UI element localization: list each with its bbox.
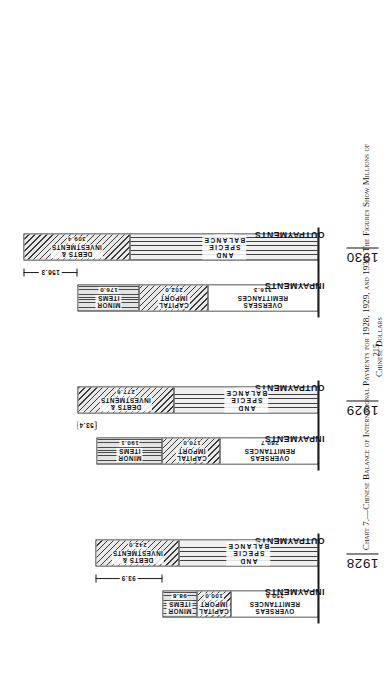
inpayments-bar-1930: OVERSEAS REMITTANCES316.3CAPITAL IMPORT2… <box>77 284 318 311</box>
segment-value: 316.3 <box>253 286 273 293</box>
chart-page: OVERSEAS REMITTANCES250.6CAPITAL IMPORT1… <box>0 0 387 693</box>
segment-value: 250.6 <box>264 592 284 599</box>
segment-label: OVERSEAS REMITTANCES <box>236 294 289 308</box>
segment-label: DEBTS & INVESTMENTS <box>50 243 102 257</box>
segment-label: TRADE AND SPECIE BALANCE <box>202 236 246 259</box>
segment-label: TRADE AND SPECIE BALANCE <box>226 542 270 565</box>
segment-value: 190.1 <box>119 439 139 446</box>
bracket-cap-top <box>23 268 24 276</box>
segment-value: 100.0 <box>204 592 224 599</box>
bracket-cap-bottom <box>76 268 77 276</box>
inpayments-bar-1929: OVERSEAS REMITTANCES280.7CAPITAL IMPORT1… <box>96 437 318 464</box>
segment-label: DEBTS & INVESTMENTS <box>111 549 163 563</box>
bar-segment: CAPITAL IMPORT100.0 <box>197 591 231 616</box>
chart-canvas: OVERSEAS REMITTANCES250.6CAPITAL IMPORT1… <box>0 0 387 693</box>
segment-value: 309.4 <box>67 235 87 242</box>
segment-label: CAPITAL IMPORT <box>175 447 207 461</box>
segment-value: 98.8 <box>171 592 187 599</box>
segment-value: 170.0 <box>181 439 201 446</box>
deficit-bracket-1930: 156.3 <box>23 266 77 278</box>
bar-plot-area: OVERSEAS REMITTANCES250.6CAPITAL IMPORT1… <box>0 0 387 693</box>
segment-value: 176.0 <box>98 286 118 293</box>
segment-value: 401.3 <box>238 540 258 541</box>
segment-value: 541.2 <box>214 234 234 235</box>
segment-label: MINOR ITEMS <box>95 294 121 308</box>
deficit-value: 156.3 <box>39 269 62 276</box>
segment-label: OVERSEAS REMITTANCES <box>242 447 295 461</box>
group-baseline <box>317 227 318 317</box>
segment-value: 202.0 <box>163 286 183 293</box>
bar-segment: DEBTS & INVESTMENTS309.4 <box>24 234 131 259</box>
segment-label: TRADE AND SPECIE BALANCE <box>223 389 267 412</box>
year-group-1930: OVERSEAS REMITTANCES316.3CAPITAL IMPORT2… <box>0 0 318 693</box>
segment-label: CAPITAL IMPORT <box>197 600 229 614</box>
segment-value: 242.0 <box>127 541 147 548</box>
bar-segment: CAPITAL IMPORT202.0 <box>139 285 209 310</box>
segment-label: DEBTS & INVESTMENTS <box>99 396 151 410</box>
segment-value: 280.7 <box>259 439 279 446</box>
outpayments-axis-label-1930: OUTPAYMENTS <box>254 229 324 239</box>
segment-label: MINOR ITEMS <box>167 600 193 614</box>
segment-value: 416.6 <box>235 387 255 388</box>
segment-label: CAPITAL IMPORT <box>157 294 189 308</box>
page-folio: 215 <box>370 343 380 356</box>
segment-label: OVERSEAS REMITTANCES <box>248 600 301 614</box>
segment-value: 277.6 <box>115 388 135 395</box>
bar-segment: MINOR ITEMS98.8 <box>163 591 197 616</box>
segment-label: MINOR ITEMS <box>116 447 142 461</box>
bar-segment: MINOR ITEMS176.0 <box>78 285 139 310</box>
